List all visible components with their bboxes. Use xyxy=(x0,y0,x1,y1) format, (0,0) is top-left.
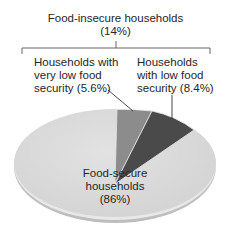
group-label-value: (14%) xyxy=(0,25,231,38)
very-low-label-line1: Households with xyxy=(34,56,118,69)
group-label: Food-insecure households (14%) xyxy=(0,12,231,38)
group-label-title: Food-insecure households xyxy=(0,12,231,25)
low-label-line3: security (8.4%) xyxy=(137,82,214,95)
low-label: Households with low food security (8.4%) xyxy=(137,56,214,95)
very-low-label: Households with very low food security (… xyxy=(34,56,118,95)
food-secure-label-line1: Food-secure xyxy=(65,167,165,180)
low-label-line2: with low food xyxy=(137,69,214,82)
group-bracket xyxy=(22,41,210,54)
food-secure-label-line3: (86%) xyxy=(65,193,165,206)
food-secure-label-line2: households xyxy=(65,180,165,193)
very-low-label-line3: security (5.6%) xyxy=(34,82,118,95)
very-low-label-line2: very low food xyxy=(34,69,118,82)
low-label-line1: Households xyxy=(137,56,214,69)
food-secure-label: Food-secure households (86%) xyxy=(65,167,165,206)
